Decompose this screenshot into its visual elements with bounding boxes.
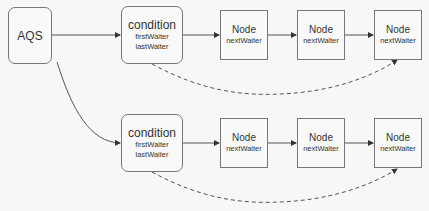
condition-box-2: condition firstWaiter lastWaiter: [121, 114, 183, 172]
node-box-2-1: Node nextWaiter: [220, 118, 268, 168]
edge-row2-lastwaiter-dashed: [152, 169, 397, 202]
next-waiter-field: nextWaiter: [303, 144, 339, 154]
node-box-1-2: Node nextWaiter: [297, 10, 345, 60]
node-label: Node: [232, 24, 256, 36]
aqs-box: AQS: [8, 7, 52, 64]
edges-layer: [0, 0, 429, 211]
edge-row1-lastwaiter-dashed: [152, 60, 397, 94]
next-waiter-field: nextWaiter: [303, 36, 339, 46]
node-box-1-3: Node nextWaiter: [374, 10, 422, 60]
node-label: Node: [309, 24, 333, 36]
last-waiter-field: lastWaiter: [135, 150, 168, 160]
node-box-1-1: Node nextWaiter: [220, 10, 268, 60]
first-waiter-field: firstWaiter: [135, 32, 168, 42]
last-waiter-field: lastWaiter: [135, 42, 168, 52]
node-label: Node: [309, 132, 333, 144]
condition-label: condition: [128, 18, 176, 32]
aqs-label: AQS: [17, 29, 42, 43]
first-waiter-field: firstWaiter: [135, 140, 168, 150]
node-box-2-2: Node nextWaiter: [297, 118, 345, 168]
condition-box-1: condition firstWaiter lastWaiter: [121, 6, 183, 64]
node-box-2-3: Node nextWaiter: [374, 118, 422, 168]
node-label: Node: [386, 132, 410, 144]
condition-label: condition: [128, 126, 176, 140]
node-label: Node: [232, 132, 256, 144]
next-waiter-field: nextWaiter: [226, 144, 262, 154]
edge-aqs-condition-2: [57, 62, 120, 143]
next-waiter-field: nextWaiter: [226, 36, 262, 46]
next-waiter-field: nextWaiter: [380, 144, 416, 154]
node-label: Node: [386, 24, 410, 36]
next-waiter-field: nextWaiter: [380, 36, 416, 46]
